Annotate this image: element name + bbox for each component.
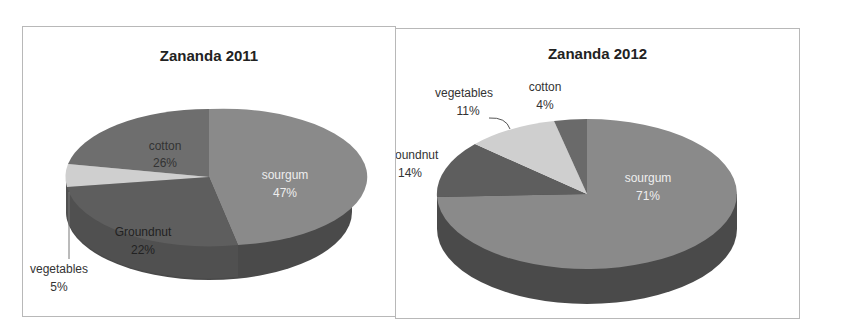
pie-chart-2012: vegetables 11% cotton 4% Groundnut 14% s… (396, 29, 799, 318)
svg-text:26%: 26% (153, 156, 177, 170)
svg-text:14%: 14% (398, 166, 422, 180)
svg-text:vegetables: vegetables (435, 86, 493, 100)
svg-text:11%: 11% (456, 104, 479, 118)
svg-text:4%: 4% (536, 98, 554, 112)
svg-text:Groundnut: Groundnut (115, 225, 172, 239)
svg-text:sourgum: sourgum (625, 171, 672, 185)
svg-text:cotton: cotton (149, 139, 182, 153)
svg-text:71%: 71% (636, 189, 660, 203)
svg-text:cotton: cotton (529, 80, 562, 94)
chart-panel-2011: Zananda 2011 cotton 26% sourgum 47% Grou… (22, 26, 396, 317)
svg-text:22%: 22% (131, 243, 155, 257)
pie-chart-2011: cotton 26% sourgum 47% Groundnut 22% veg… (23, 27, 395, 316)
svg-text:vegetables: vegetables (30, 262, 88, 276)
svg-text:Groundnut: Groundnut (396, 148, 439, 162)
chart-panel-2012: Zananda 2012 vegetables 11% cotton 4% Gr… (395, 28, 800, 319)
svg-text:47%: 47% (273, 186, 297, 200)
svg-text:sourgum: sourgum (262, 168, 309, 182)
svg-text:5%: 5% (50, 280, 68, 294)
